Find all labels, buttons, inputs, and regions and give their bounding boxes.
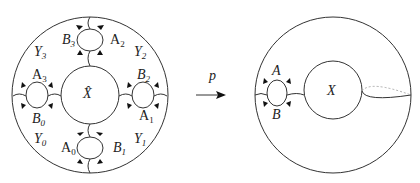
label-y1: Y1 <box>134 131 146 148</box>
right-surface: A B X <box>255 17 411 173</box>
label-y2: Y2 <box>134 44 147 61</box>
label-y3: Y3 <box>34 44 47 61</box>
covering-map-arrow: p <box>196 68 226 99</box>
label-b1: B1 <box>113 140 126 157</box>
label-x-hat: X̂ <box>82 86 92 101</box>
label-b: B <box>272 107 281 122</box>
label-a: A <box>271 63 281 78</box>
handle-left <box>13 82 61 109</box>
label-a0: A0 <box>61 140 76 157</box>
label-a2: A2 <box>110 32 125 49</box>
label-y0: Y0 <box>34 131 47 148</box>
label-b2: B2 <box>137 67 151 84</box>
cut-curve-front <box>362 91 411 98</box>
covering-diagram: X̂ Y3 Y2 Y0 Y1 B3 A2 A3 B0 B2 A1 A0 B1 p <box>0 0 420 183</box>
label-p: p <box>208 68 216 83</box>
handle-right <box>119 82 167 109</box>
label-x: X <box>326 83 336 98</box>
cut-curve-back <box>362 86 411 95</box>
handle-right-surface <box>255 78 304 107</box>
handle-top <box>76 17 104 66</box>
label-a3: A3 <box>32 67 47 84</box>
label-a1: A1 <box>139 108 154 125</box>
label-b0: B0 <box>32 111 46 128</box>
handle-bottom <box>77 124 103 173</box>
label-b3: B3 <box>62 32 76 49</box>
left-surface: X̂ Y3 Y2 Y0 Y1 B3 A2 A3 B0 B2 A1 A0 B1 <box>12 17 168 173</box>
